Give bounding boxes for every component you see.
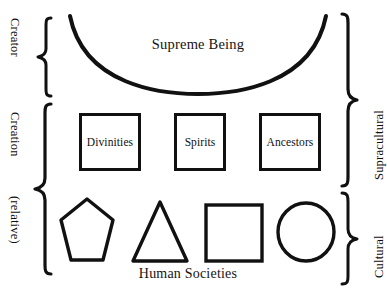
right-label-cultural: Cultural — [372, 235, 387, 278]
entity-box-ancestors[interactable]: Ancestors — [259, 113, 321, 171]
brace-right-supracultural — [338, 8, 362, 192]
left-label-creation: Creation — [7, 112, 22, 157]
left-label-relative: (relative) — [7, 196, 22, 244]
society-shape-pentagon[interactable] — [58, 195, 116, 265]
society-shape-triangle[interactable] — [130, 198, 190, 265]
diagram-canvas: Creator Creation (relative) Supreme Bein… — [0, 0, 387, 300]
human-societies-label: Human Societies — [78, 266, 298, 282]
society-shape-square[interactable] — [203, 202, 265, 264]
entity-box-ancestors-label: Ancestors — [267, 136, 314, 148]
entity-box-spirits-label: Spirits — [185, 136, 216, 148]
brace-left-creation-relative — [30, 98, 54, 280]
brace-right-cultural — [338, 188, 362, 290]
supreme-being-arc — [62, 8, 334, 98]
left-label-creator: Creator — [7, 18, 22, 57]
right-label-supracultural: Supracultural — [372, 110, 387, 180]
entity-box-divinities-label: Divinities — [87, 136, 133, 148]
entity-box-divinities[interactable]: Divinities — [79, 113, 141, 171]
society-shape-circle[interactable] — [275, 200, 337, 264]
supreme-being-label: Supreme Being — [62, 36, 334, 53]
brace-left-creator — [33, 12, 55, 102]
entity-box-spirits[interactable]: Spirits — [174, 113, 226, 171]
